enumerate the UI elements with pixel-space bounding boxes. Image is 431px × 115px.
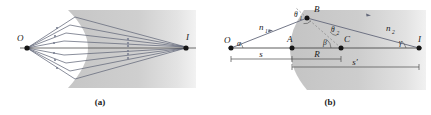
angle-of-refraction-label: θ — [331, 25, 335, 34]
medium-fill-b — [290, 10, 426, 90]
panel-a-caption: (a) — [95, 97, 106, 107]
center-point-label-b: C — [344, 34, 351, 44]
index-right-label: n — [386, 23, 391, 33]
image-point-dot-a — [183, 45, 188, 50]
object-distance-label: s — [259, 49, 263, 59]
angle-of-refraction-subscript: 2 — [337, 30, 340, 36]
index-left-label: n — [259, 22, 264, 32]
angle-beta-label: β — [322, 38, 327, 47]
object-point-dot-a — [24, 45, 29, 50]
object-point-label-b: O — [224, 35, 231, 45]
center-point-dot-b — [339, 46, 344, 51]
index-right-subscript: 2 — [392, 29, 395, 35]
angle-of-incidence-label: θ — [294, 10, 298, 19]
figure-canvas: O I (a) — [0, 0, 431, 115]
angle-of-incidence-subscript: 1 — [300, 15, 303, 21]
incidence-point-label-b: B — [314, 4, 320, 14]
vertex-point-dot-b — [290, 46, 295, 51]
index-left-subscript: 1 — [265, 28, 268, 34]
object-point-label-a: O — [17, 33, 24, 43]
panel-b-caption: (b) — [325, 97, 336, 107]
radius-label: R — [313, 49, 320, 59]
image-point-dot-b — [417, 46, 422, 51]
optics-figure: O I (a) — [0, 0, 431, 115]
object-point-dot-b — [229, 46, 234, 51]
incidence-point-dot-b — [305, 16, 310, 21]
vertex-point-label-b: A — [286, 34, 293, 44]
